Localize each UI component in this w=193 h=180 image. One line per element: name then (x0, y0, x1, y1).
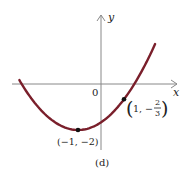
parabola-curve (19, 44, 155, 130)
vertex-label: (−1, −2) (57, 136, 98, 147)
x-axis-label: x (173, 86, 180, 99)
origin-label: 0 (92, 87, 98, 98)
parabola-chart: y x 0 (−1, −2) ( 1, − 2 3 ) (d) (0, 0, 193, 180)
point-1-numerator: 2 (155, 98, 160, 107)
figure: y x 0 (−1, −2) ( 1, − 2 3 ) (d) (0, 0, 193, 180)
vertex-point (76, 128, 81, 133)
point-1-denominator: 3 (155, 109, 160, 118)
figure-caption: (d) (95, 157, 109, 168)
y-axis-label: y (107, 11, 115, 24)
point-1-label: 1, − (133, 103, 153, 114)
point-1-paren-right: ) (161, 97, 168, 119)
